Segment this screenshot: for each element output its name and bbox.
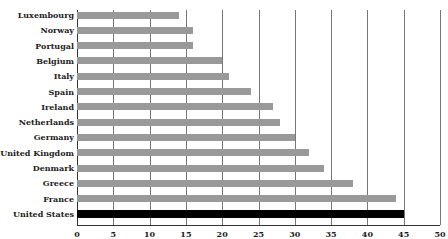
x-tick-label: 35 <box>326 229 337 239</box>
category-label: Spain <box>49 87 74 97</box>
gridline <box>222 10 223 225</box>
bar <box>77 57 222 64</box>
x-tick-label: 10 <box>144 229 155 239</box>
bar <box>77 27 193 34</box>
gridline <box>331 10 332 225</box>
x-tick-label: 40 <box>362 229 373 239</box>
x-tick-label: 30 <box>289 229 300 239</box>
category-label: Ireland <box>41 102 74 112</box>
bar <box>77 149 309 156</box>
bar <box>77 42 193 49</box>
x-tick-label: 15 <box>180 229 191 239</box>
category-label: France <box>43 194 74 204</box>
category-label: United Kingdom <box>0 148 74 158</box>
category-label: Germany <box>34 132 74 142</box>
category-label: Norway <box>40 25 74 35</box>
bar <box>77 180 353 187</box>
bar <box>77 119 280 126</box>
bar <box>77 195 396 202</box>
bar <box>77 12 179 19</box>
x-axis-line <box>77 225 440 226</box>
gridline <box>440 10 441 225</box>
bar <box>77 165 324 172</box>
category-label: Netherlands <box>19 117 74 127</box>
x-tick-label: 20 <box>217 229 228 239</box>
gridline <box>367 10 368 225</box>
x-tick-label: 50 <box>434 229 445 239</box>
gridline <box>295 10 296 225</box>
category-label: Italy <box>54 71 74 81</box>
category-label: Denmark <box>33 163 74 173</box>
x-tick-label: 45 <box>398 229 409 239</box>
category-label: Greece <box>43 178 74 188</box>
x-tick-label: 25 <box>253 229 264 239</box>
bar <box>77 103 273 110</box>
x-tick-label: 0 <box>74 229 80 239</box>
bar <box>77 210 404 218</box>
x-tick-label: 5 <box>111 229 117 239</box>
category-label: United States <box>13 209 74 219</box>
gridline <box>404 10 405 225</box>
category-label: Belgium <box>36 56 74 66</box>
bar <box>77 73 229 80</box>
category-label: Portugal <box>35 41 74 51</box>
bar <box>77 88 251 95</box>
gridline <box>259 10 260 225</box>
bar <box>77 134 295 141</box>
category-label: Luxembourg <box>18 10 74 20</box>
